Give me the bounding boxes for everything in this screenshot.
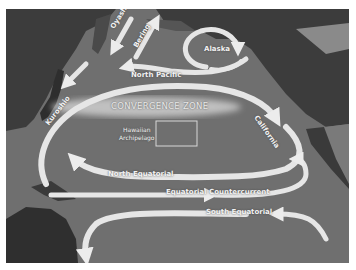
south-equatorial-west [85, 213, 246, 257]
map-graphics [6, 9, 349, 263]
western-boundary-arrow [66, 64, 86, 84]
label-archipelago: Archipelago [119, 134, 155, 141]
south-equatorial-current [276, 214, 326, 239]
hawaiian-archipelago-box [156, 121, 197, 146]
label-north-pacific: North Pacific [131, 71, 181, 79]
australia [6, 207, 78, 263]
label-north-equatorial: North Equatorial [108, 170, 174, 178]
label-south-equatorial: South Equatorial [206, 208, 272, 216]
label-equatorial-countercurrent: Equatorial Countercurrent [166, 188, 270, 196]
new-guinea [31, 181, 76, 201]
ocean-currents-map: Oyashio Bering Alaska North Pacific Kuro… [6, 9, 349, 263]
label-hawaiian: Hawaiian [123, 126, 151, 133]
label-alaska: Alaska [204, 45, 230, 53]
label-convergence-zone: CONVERGENCE ZONE [111, 101, 208, 111]
